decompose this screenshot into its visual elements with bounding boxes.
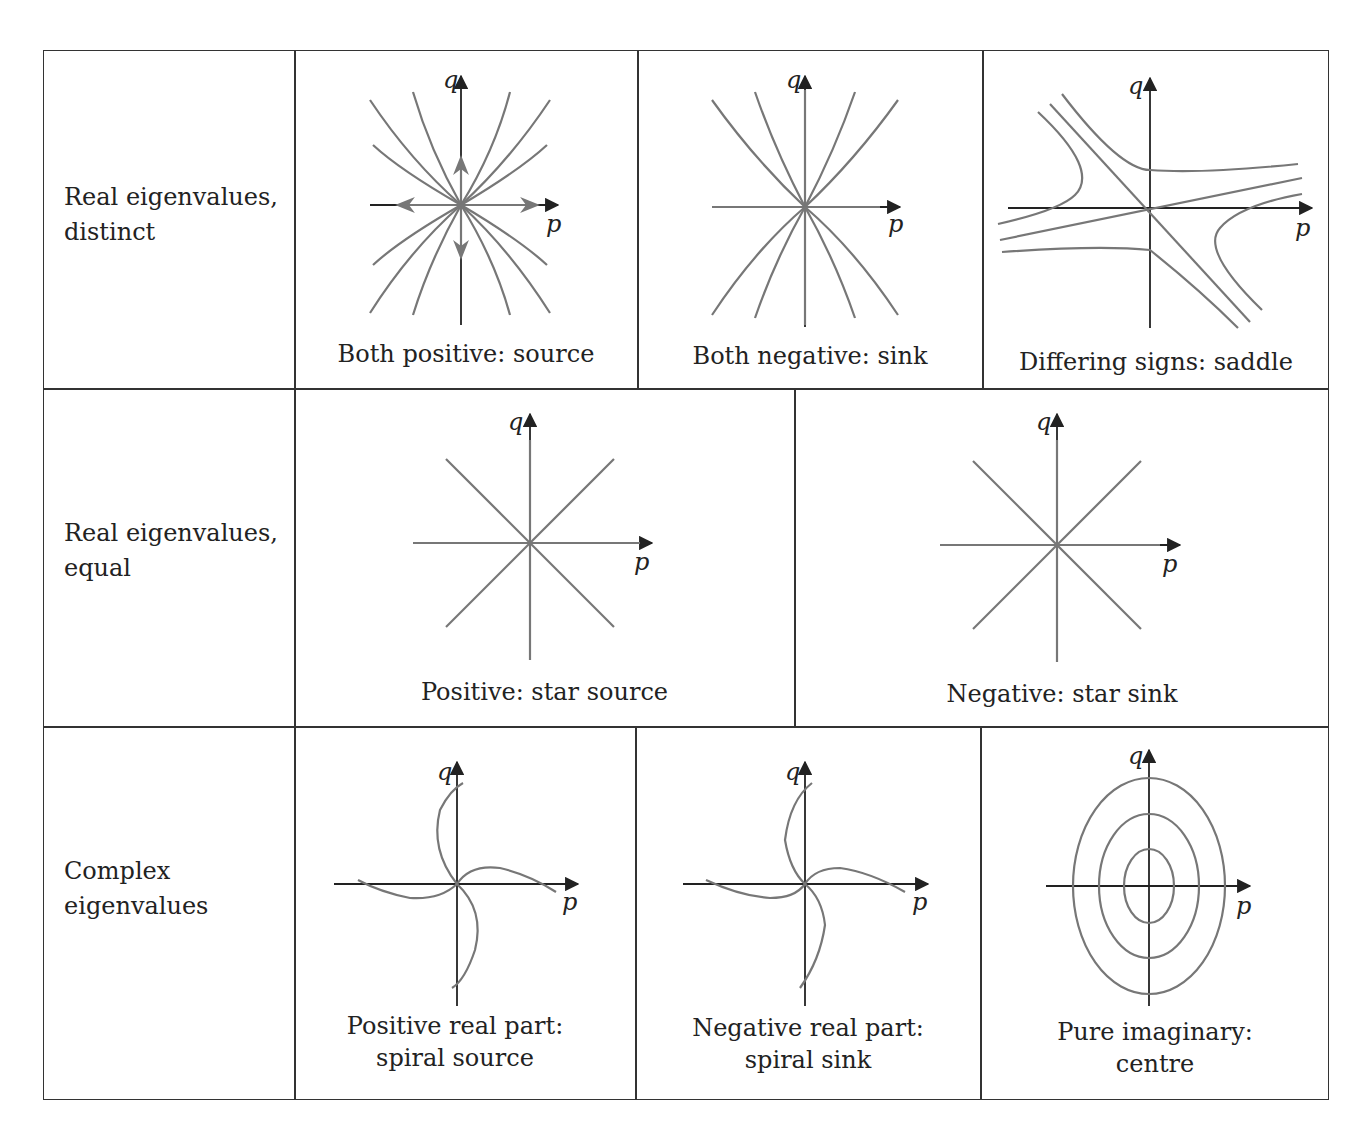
svg-text:q: q <box>786 66 801 94</box>
svg-text:p: p <box>634 548 649 576</box>
svg-text:q: q <box>1036 408 1051 436</box>
svg-text:p: p <box>1295 214 1310 242</box>
svg-text:p: p <box>1162 550 1177 578</box>
svg-text:p: p <box>1236 892 1251 920</box>
sink-portrait: pq <box>712 66 903 327</box>
phase-portraits: pq pq pq <box>0 0 1361 1127</box>
star-source-portrait: pq <box>413 408 652 660</box>
centre-portrait: pq <box>1046 742 1251 1006</box>
saddle-portrait: pq <box>998 72 1312 328</box>
spiral-sink-portrait: pq <box>683 758 928 1006</box>
star-sink-portrait: pq <box>940 408 1180 662</box>
svg-text:q: q <box>443 66 458 94</box>
svg-text:q: q <box>1128 72 1143 100</box>
svg-text:p: p <box>546 210 561 238</box>
svg-text:q: q <box>437 758 452 786</box>
svg-text:p: p <box>912 888 927 916</box>
svg-text:q: q <box>785 758 800 786</box>
svg-text:p: p <box>888 210 903 238</box>
svg-text:p: p <box>562 888 577 916</box>
spiral-source-portrait: pq <box>334 758 578 1006</box>
svg-text:q: q <box>508 408 523 436</box>
svg-text:q: q <box>1128 742 1143 770</box>
source-portrait: pq <box>370 66 561 325</box>
